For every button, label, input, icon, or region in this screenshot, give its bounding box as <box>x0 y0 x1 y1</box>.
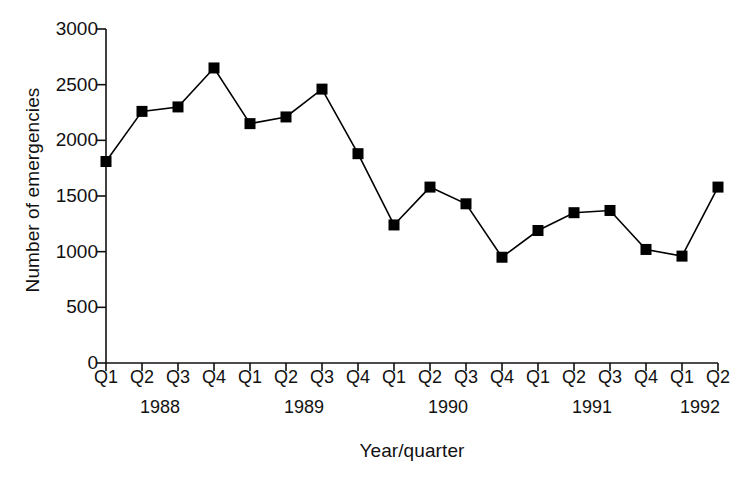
x-tick-label: Q3 <box>158 368 198 386</box>
x-tick-label: Q3 <box>446 368 486 386</box>
x-tick-label: Q1 <box>374 368 414 386</box>
x-axis-year-label: 1990 <box>413 398 483 416</box>
x-axis-year-label: 1988 <box>125 398 195 416</box>
x-tick-label: Q4 <box>626 368 666 386</box>
x-tick-label: Q3 <box>302 368 342 386</box>
x-tick-label: Q2 <box>554 368 594 386</box>
x-tick-label: Q1 <box>86 368 126 386</box>
x-tick-label: Q3 <box>590 368 630 386</box>
x-tick-label: Q4 <box>482 368 522 386</box>
x-tick-label: Q1 <box>662 368 702 386</box>
x-axis-year-label: 1992 <box>665 398 735 416</box>
x-tick-label: Q2 <box>698 368 738 386</box>
x-axis-year-label: 1991 <box>557 398 627 416</box>
x-tick-label: Q1 <box>518 368 558 386</box>
x-tick-label: Q4 <box>338 368 378 386</box>
x-axis-title: Year/quarter <box>106 440 718 462</box>
x-tick-label: Q2 <box>266 368 306 386</box>
x-tick-label: Q2 <box>122 368 162 386</box>
x-axis-tick-labels: Q1Q2Q3Q4Q1Q2Q3Q4Q1Q2Q3Q4Q1Q2Q3Q4Q1Q21988… <box>0 0 740 478</box>
x-tick-label: Q4 <box>194 368 234 386</box>
x-axis-year-label: 1989 <box>269 398 339 416</box>
x-tick-label: Q1 <box>230 368 270 386</box>
x-tick-label: Q2 <box>410 368 450 386</box>
chart-figure: Number of emergencies 050010001500200025… <box>0 0 740 478</box>
